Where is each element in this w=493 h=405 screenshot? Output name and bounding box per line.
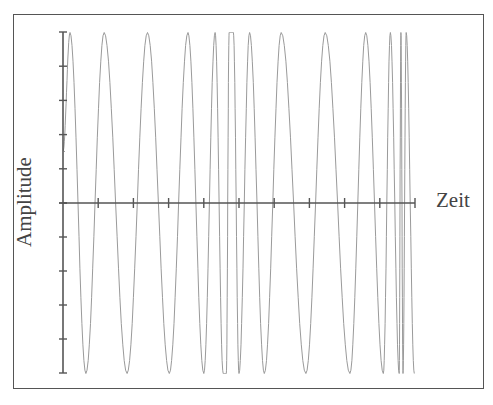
x-axis-label: Zeit: [436, 188, 470, 213]
plot-area: [0, 0, 493, 405]
y-axis-label: Amplitude: [12, 157, 37, 247]
